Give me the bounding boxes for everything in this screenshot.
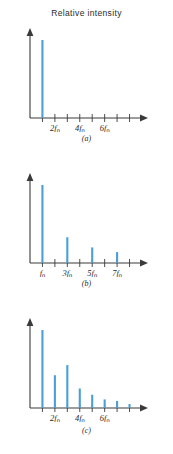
chart-b-axes <box>27 173 148 266</box>
chart-a-axes <box>27 28 148 121</box>
tick-label: 5f0 <box>87 268 97 277</box>
chart-a-tick-labels: 2f04f06f0 <box>50 123 109 132</box>
tick-label: 4f0 <box>75 123 85 132</box>
chart-c: 2f04f06f0 <box>0 312 173 422</box>
tick-label: f0 <box>40 268 45 277</box>
chart-b-tick-labels: f03f05f07f0 <box>40 268 122 277</box>
chart-c-bars <box>42 330 129 408</box>
figure-title: Relative intensity <box>0 8 173 18</box>
tick-label: 6f0 <box>100 413 110 422</box>
panel-a-caption: (a) <box>0 134 173 143</box>
figure-root: Relative intensity 2f04f06f0 (a) <box>0 0 173 454</box>
panel-c: 2f04f06f0 (c) <box>0 312 173 452</box>
tick-label: 4f0 <box>75 413 85 422</box>
chart-b: f03f05f07f0 <box>0 167 173 277</box>
chart-c-tick-labels: 2f04f06f0 <box>50 413 109 422</box>
chart-b-svg: f03f05f07f0 <box>0 167 173 277</box>
tick-label: 3f0 <box>61 268 72 277</box>
panel-b: f03f05f07f0 (b) <box>0 167 173 301</box>
panel-a: 2f04f06f0 (a) <box>0 22 173 156</box>
chart-c-svg: 2f04f06f0 <box>0 312 173 422</box>
panel-c-caption: (c) <box>0 426 173 435</box>
tick-label: 6f0 <box>100 123 110 132</box>
chart-a-svg: 2f04f06f0 <box>0 22 173 132</box>
chart-b-bars <box>42 185 117 263</box>
tick-label: 2f0 <box>50 413 60 422</box>
chart-c-axes <box>27 318 148 411</box>
panel-b-caption: (b) <box>0 279 173 288</box>
tick-label: 7f0 <box>112 268 122 277</box>
chart-a: 2f04f06f0 <box>0 22 173 132</box>
tick-label: 2f0 <box>50 123 60 132</box>
